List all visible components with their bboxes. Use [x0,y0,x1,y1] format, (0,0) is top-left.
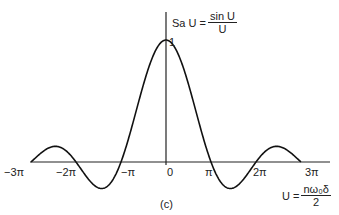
x-tick-neg-pi: −π [121,166,135,178]
figure-caption: (c) [160,198,173,210]
x-tick-pi: π [205,166,213,178]
x-tick-neg-2pi: −2π [56,166,76,178]
x-tick-zero: 0 [167,166,173,178]
y-tick-1: 1 [169,36,175,48]
x-tick-neg-3pi: −3π [4,166,24,178]
x-tick-2pi: 2π [253,166,267,178]
function-prefix: Sa U = [172,17,206,29]
x-label-prefix: U = [282,190,299,202]
function-numerator: sin U [208,10,237,23]
x-axis-label: U = nω₀δ 2 [282,183,331,208]
x-label-numerator: nω₀δ [301,183,330,196]
function-label: Sa U = sin U U [172,10,237,35]
function-denominator: U [218,23,226,35]
x-label-denominator: 2 [313,196,319,208]
x-tick-3pi: 3π [305,166,319,178]
